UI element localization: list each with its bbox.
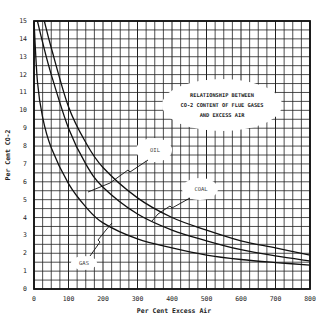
y-tick-label: 1 [23, 267, 27, 275]
x-tick-label: 400 [166, 295, 178, 303]
gas-label: GAS [79, 260, 89, 266]
x-tick-label: 700 [270, 295, 282, 303]
x-tick-label: 200 [97, 295, 109, 303]
co2-excess-air-chart: 0100200300400500600700800012345678910111… [0, 0, 330, 329]
x-tick-label: 500 [201, 295, 213, 303]
y-tick-label: 4 [23, 214, 27, 222]
y-tick-label: 10 [19, 106, 27, 114]
y-tick-label: 7 [23, 160, 27, 168]
x-tick-label: 100 [63, 295, 75, 303]
grid [34, 21, 310, 289]
x-tick-label: 600 [235, 295, 247, 303]
chart-title-line-1: RELATIONSHIP BETWEEN [190, 92, 254, 98]
chart-title-line-3: AND EXCESS AIR [200, 112, 245, 118]
tick-labels: 0100200300400500600700800012345678910111… [19, 17, 316, 303]
y-axis-label: Per Cent CO-2 [4, 129, 12, 180]
coal-label: COAL [194, 186, 208, 192]
y-tick-label: 13 [19, 53, 27, 61]
y-tick-label: 14 [19, 35, 27, 43]
y-tick-label: 15 [19, 17, 27, 25]
y-tick-label: 11 [19, 88, 27, 96]
oil-label: OIL [150, 147, 161, 153]
y-tick-label: 5 [23, 196, 27, 204]
x-tick-label: 300 [132, 295, 144, 303]
chart-title-line-2: CO-2 CONTENT OF FLUE GASES [181, 102, 264, 108]
y-tick-label: 3 [23, 231, 27, 239]
gas-pointer [90, 223, 112, 256]
y-tick-label: 8 [23, 142, 27, 150]
y-tick-label: 2 [23, 249, 27, 257]
y-tick-label: 9 [23, 124, 27, 132]
y-tick-label: 12 [19, 71, 27, 79]
y-tick-label: 6 [23, 178, 27, 186]
x-tick-label: 800 [304, 295, 316, 303]
x-axis-label: Per Cent Excess Air [137, 307, 211, 315]
y-tick-label: 0 [23, 285, 27, 293]
curve-coal [44, 21, 310, 255]
x-tick-label: 0 [32, 295, 36, 303]
oil-pointer [88, 160, 148, 192]
